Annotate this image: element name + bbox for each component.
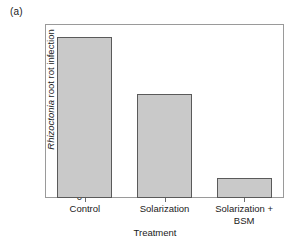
bar [137, 94, 192, 198]
x-tick-label: Solarization +BSM [205, 203, 283, 226]
plot-area: Rhizoctonia root rot infection 036912 Co… [45, 24, 284, 198]
bar [57, 37, 112, 198]
panel-label: (a) [10, 6, 23, 18]
y-axis-title-italic: Rhizoctonia [45, 100, 56, 150]
x-axis-title: Treatment [95, 227, 215, 238]
y-axis-title-plain: root rot infection [45, 29, 56, 97]
x-tick-mark [85, 198, 86, 202]
x-tick-mark [165, 198, 166, 202]
x-tick-label: Solarization [126, 203, 204, 214]
figure-panel-a: (a) Rhizoctonia root rot infection 03691… [0, 0, 298, 246]
x-tick-label: Control [46, 203, 124, 214]
y-axis-title: Rhizoctonia root rot infection [45, 0, 56, 190]
x-tick-mark [244, 198, 245, 202]
bar [217, 178, 272, 198]
